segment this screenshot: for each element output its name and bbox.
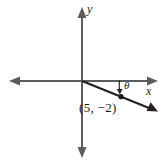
theta-arrowhead bbox=[117, 89, 123, 94]
point-coordinate-label: (5, −2) bbox=[79, 101, 117, 114]
angle-theta-indicator bbox=[117, 81, 123, 95]
x-axis-left-arrowhead bbox=[9, 77, 20, 86]
y-axis-label: y bbox=[87, 3, 92, 15]
y-axis-bottom-arrowhead bbox=[78, 147, 87, 158]
coordinate-plane-figure: y x θ (5, −2) bbox=[0, 0, 166, 164]
figure-canvas bbox=[0, 0, 166, 164]
x-axis-label: x bbox=[146, 85, 151, 97]
plotted-point-dot bbox=[118, 94, 123, 99]
y-axis-top-arrowhead bbox=[78, 7, 87, 18]
angle-theta-label: θ bbox=[124, 80, 129, 91]
